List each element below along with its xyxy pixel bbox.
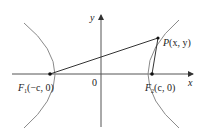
focus-f2 [150,72,154,76]
f1-p-segment [50,38,158,74]
f2-label: F2(c, 0) [144,82,175,94]
f2-p-segment [152,38,158,74]
f1-label: F1(−c, 0) [17,82,54,94]
p-label: P(x, y) [162,37,191,49]
origin-label: 0 [92,77,97,88]
hyperbola-diagram: y x 0 F1(−c, 0) F2(c, 0) P(x, y) [0,0,204,140]
x-axis-label: x [187,77,193,88]
y-axis-label: y [89,12,95,23]
focus-f1 [48,72,52,76]
point-p [156,36,159,39]
